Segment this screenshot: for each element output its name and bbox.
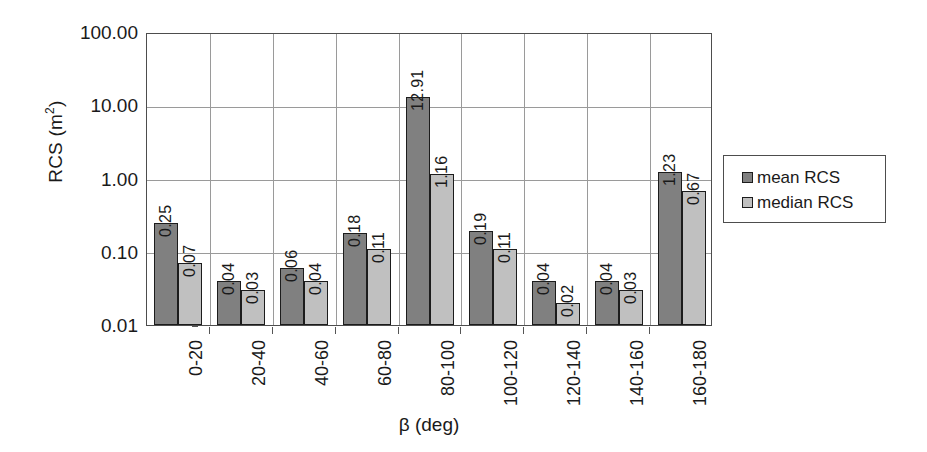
x-axis-category-label: 100-120 (501, 340, 522, 406)
bar-value-label: 0.03 (244, 272, 262, 304)
x-axis-category-label: 60-80 (375, 340, 396, 386)
vertical-gridline (273, 34, 274, 325)
bar-value-label: 1.16 (433, 155, 451, 187)
bar-median (430, 174, 454, 325)
x-axis-tick-mark (335, 327, 336, 334)
bar-value-label: 0.25 (157, 204, 175, 236)
bar-mean (469, 231, 493, 325)
bar-value-label: 0.04 (307, 263, 325, 295)
y-axis-ticks: 100.0010.001.000.100.01 (52, 0, 138, 452)
x-axis-tick-mark (272, 327, 273, 334)
bar-value-label: 0.04 (220, 263, 238, 295)
y-axis-tick-label: 1.00 (54, 169, 138, 191)
x-axis-category-label: 40-60 (312, 340, 333, 386)
vertical-gridline (650, 34, 651, 325)
x-axis-category-label: 120-140 (564, 340, 585, 406)
bar-mean (406, 97, 430, 325)
x-axis-title: β (deg) (0, 414, 858, 436)
legend-swatch-icon (742, 197, 753, 208)
x-axis-tick-mark (649, 327, 650, 334)
bar-value-label: 0.04 (535, 263, 553, 295)
x-axis-category-label: 160-180 (690, 340, 711, 406)
x-axis-category-label: 20-40 (249, 340, 270, 386)
y-axis-tick-label: 0.01 (54, 315, 138, 337)
bar-value-label: 0.07 (181, 245, 199, 277)
bar-mean (658, 172, 682, 325)
plot-area: 0.250.070.040.030.060.040.180.1112.911.1… (146, 33, 712, 326)
rcs-bar-chart-figure: RCS (m2) 100.0010.001.000.100.01 0.250.0… (0, 0, 927, 452)
bar-median (682, 191, 706, 325)
vertical-gridline (210, 34, 211, 325)
vertical-gridline (336, 34, 337, 325)
bar-value-label: 0.18 (346, 215, 364, 247)
x-axis-tick-mark (586, 327, 587, 334)
x-axis-tick-mark (398, 327, 399, 334)
y-axis-tick-label: 0.10 (54, 242, 138, 264)
chart-legend: mean RCSmedian RCS (723, 155, 886, 223)
bar-value-label: 0.19 (472, 213, 490, 245)
legend-label: mean RCS (757, 168, 840, 188)
legend-swatch-icon (742, 172, 753, 183)
bar-value-label: 0.06 (283, 250, 301, 282)
bar-value-label: 0.02 (559, 285, 577, 317)
legend-item[interactable]: median RCS (742, 190, 885, 215)
vertical-gridline (524, 34, 525, 325)
bar-value-label: 1.23 (661, 154, 679, 186)
bar-value-label: 0.04 (598, 263, 616, 295)
bar-value-label: 0.03 (622, 272, 640, 304)
x-axis-category-label: 80-100 (438, 340, 459, 396)
legend-label: median RCS (757, 193, 853, 213)
x-axis-category-label: 140-160 (627, 340, 648, 406)
bar-mean (154, 223, 178, 325)
bar-value-label: 0.11 (370, 232, 388, 263)
vertical-gridline (587, 34, 588, 325)
vertical-gridline (399, 34, 400, 325)
bar-value-label: 0.67 (685, 173, 703, 205)
y-axis-tick-label: 10.00 (54, 95, 138, 117)
bar-value-label: 12.91 (409, 70, 427, 112)
x-axis-tick-mark (523, 327, 524, 334)
y-axis-tick-mark (192, 326, 198, 327)
x-axis-tick-mark (460, 327, 461, 334)
bar-value-label: 0.11 (496, 232, 514, 263)
x-axis-category-label: 0-20 (186, 340, 207, 376)
vertical-gridline (461, 34, 462, 325)
y-axis-tick-label: 100.00 (54, 22, 138, 44)
x-axis-tick-mark (209, 327, 210, 334)
legend-item[interactable]: mean RCS (742, 165, 885, 190)
